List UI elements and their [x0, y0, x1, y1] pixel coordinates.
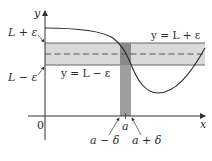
upper-line-equation: y = L + ε [150, 29, 200, 41]
lower-bound-pointer [38, 67, 44, 75]
lower-bound-label: L − ε [7, 71, 38, 84]
lower-line-equation: y = L − ε [60, 67, 110, 79]
y-axis-label: y [33, 7, 41, 20]
upper-bound-pointer [38, 35, 44, 42]
origin-label: 0 [37, 119, 44, 132]
a-minus-delta-pointer [109, 118, 119, 135]
epsilon-delta-limit-diagram: y x 0 L + ε L − ε y = L + ε y = L − ε a … [0, 0, 212, 161]
a-plus-delta-label: a + δ [132, 134, 162, 147]
upper-bound-label: L + ε [7, 26, 38, 39]
a-minus-delta-label: a − δ [90, 134, 120, 147]
x-axis-label: x [200, 118, 207, 131]
a-plus-delta-pointer [132, 118, 141, 135]
a-label: a [122, 120, 129, 133]
